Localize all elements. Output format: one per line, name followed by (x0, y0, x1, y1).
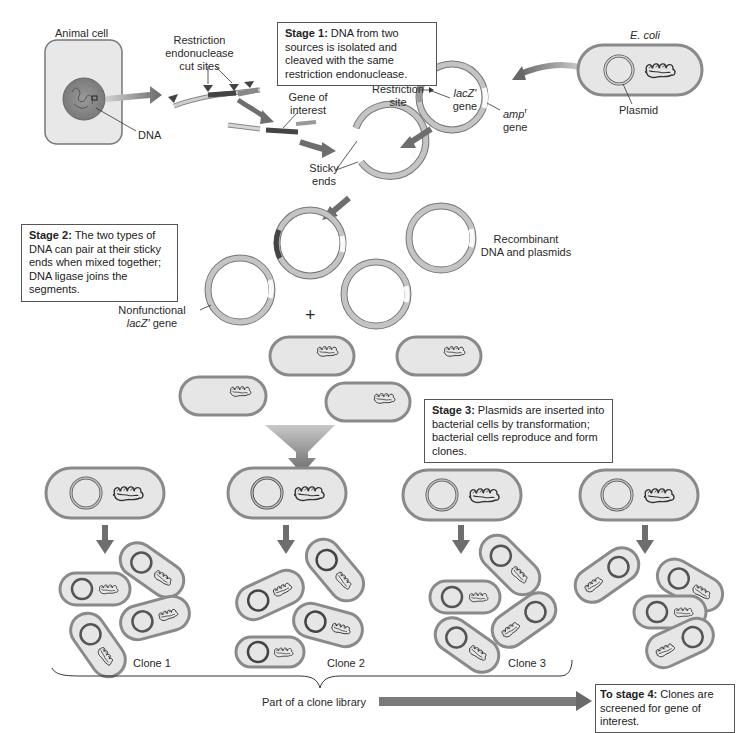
arrow-ecoli-to-plasmid (520, 65, 584, 74)
clone-4 (569, 541, 729, 673)
label-restriction-site: Restriction site (368, 83, 428, 109)
arrow-to-stage4 (379, 697, 579, 706)
clone-1 (60, 536, 193, 683)
label-sticky-ends: Sticky ends (306, 162, 342, 188)
stage1-box: Stage 1: DNA from two sources is isolate… (277, 22, 437, 86)
stage2-box: Stage 2: The two types of DNA can pair a… (21, 224, 178, 302)
parent-cell-1 (46, 468, 164, 518)
label-ampr-gene: ampr gene (503, 104, 527, 134)
animal-cell (45, 40, 136, 144)
label-recombinant: Recombinant DNA and plasmids (476, 233, 576, 259)
label-animal-cell: Animal cell (55, 27, 108, 40)
label-clone-library: Part of a clone library (262, 696, 366, 709)
recombinant-plasmid-1 (276, 210, 343, 276)
plus-sign: + (305, 306, 316, 324)
label-restriction-cut-sites: Restriction endonuclease cut sites (162, 34, 237, 73)
recombinant-plasmid-2 (200, 258, 272, 322)
ecoli-cell (578, 45, 702, 104)
parent-cell-2 (228, 468, 346, 518)
label-nonfunctional-lacz: Nonfunctional lacZ' gene (112, 304, 192, 330)
label-lacz-gene: lacZ' gene (448, 87, 482, 113)
label-clone-3: Clone 3 (508, 657, 546, 670)
label-clone-2: Clone 2 (327, 657, 365, 670)
clone-2 (231, 532, 370, 667)
label-gene-of-interest: Gene of interest (283, 91, 333, 117)
stage3-box: Stage 3: Plasmids are inserted into bact… (424, 399, 613, 463)
parent-cell-3 (403, 470, 521, 520)
parent-cell-4 (580, 470, 698, 520)
recombinant-plasmid-4 (344, 262, 408, 326)
reproduce-arrows (96, 525, 654, 554)
label-plasmid: Plasmid (619, 104, 658, 117)
stage4-box: To stage 4: Clones are screened for gene… (595, 684, 735, 733)
label-ecoli: E. coli (630, 29, 660, 42)
restriction-site-pointer-icon (420, 86, 434, 94)
recombinant-plasmid-3 (409, 206, 473, 270)
label-clone-1: Clone 1 (133, 657, 171, 670)
label-dna: DNA (138, 129, 161, 142)
